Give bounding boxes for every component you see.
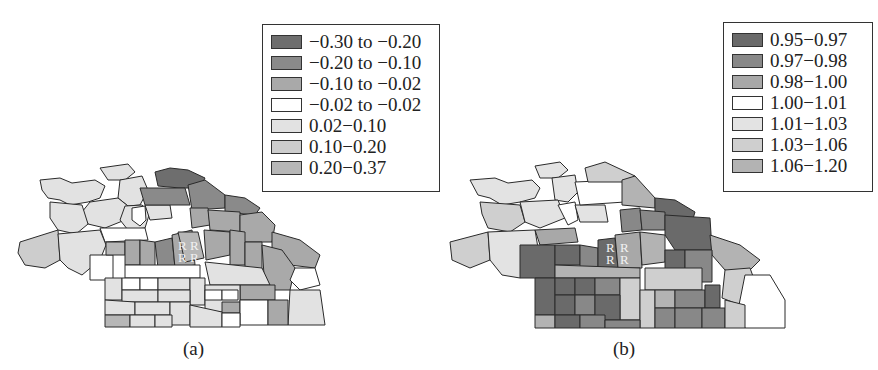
- legend-item: 1.06−1.20: [732, 155, 864, 176]
- legend-item: 1.01−1.03: [732, 113, 864, 134]
- region: [640, 290, 655, 328]
- legend-label: −0.20 to −0.10: [309, 53, 421, 72]
- panel-b: R R R R 0.95−0.97 0.97−0.98 0.98−1.00 1.…: [440, 0, 878, 370]
- region: [105, 278, 122, 300]
- region: [675, 308, 702, 328]
- swatch: [732, 33, 763, 47]
- legend-item: 0.98−1.00: [732, 71, 864, 92]
- swatch: [732, 96, 763, 110]
- legend-item: 0.02−0.10: [271, 115, 431, 136]
- legend-label: 1.03−1.06: [770, 135, 847, 154]
- legend-label: 0.20−0.37: [309, 158, 386, 177]
- region: [640, 210, 665, 230]
- region: [552, 175, 578, 202]
- legend-a: −0.30 to −0.20 −0.20 to −0.10 −0.10 to −…: [262, 24, 440, 192]
- region: [145, 205, 172, 220]
- region: [130, 315, 155, 327]
- region: [18, 230, 60, 268]
- region: [205, 290, 222, 300]
- region: [450, 232, 490, 268]
- legend-item: 1.03−1.06: [732, 134, 864, 155]
- region: [580, 245, 598, 268]
- region: [480, 202, 525, 232]
- marker-r: R: [178, 250, 187, 265]
- region: [190, 278, 205, 305]
- region: [725, 300, 745, 328]
- legend-label: −0.10 to −0.02: [309, 74, 421, 93]
- region: [575, 295, 595, 315]
- region: [155, 315, 172, 327]
- legend-item: −0.20 to −0.10: [271, 52, 431, 73]
- region: [290, 268, 320, 290]
- swatch: [732, 54, 763, 68]
- region: [702, 308, 725, 328]
- caption-b: (b): [613, 338, 635, 360]
- swatch: [732, 75, 763, 89]
- region: [605, 320, 640, 328]
- region: [204, 230, 230, 260]
- region: [620, 278, 640, 320]
- swatch: [271, 161, 302, 175]
- region: [240, 300, 268, 325]
- region: [105, 300, 135, 315]
- region: [105, 315, 130, 327]
- marker-r: R: [606, 252, 615, 267]
- marker-r: R: [190, 250, 199, 265]
- region: [705, 285, 720, 308]
- region: [190, 208, 210, 228]
- region: [222, 313, 240, 327]
- region: [82, 198, 128, 228]
- region: [595, 278, 620, 295]
- region: [170, 302, 190, 325]
- region: [155, 238, 175, 268]
- region: [222, 302, 240, 313]
- region: [288, 290, 325, 325]
- region: [100, 164, 135, 180]
- panel-a: R R R R −0.30 to −0.20 −0.20 to −0.10 −0…: [0, 0, 440, 370]
- marker-r: R: [620, 252, 629, 267]
- legend-item: −0.30 to −0.20: [271, 31, 431, 52]
- region: [140, 240, 155, 268]
- region: [520, 200, 565, 228]
- swatch: [271, 77, 302, 91]
- region: [645, 268, 702, 290]
- region: [555, 278, 575, 295]
- region: [158, 278, 190, 290]
- legend-label: 0.10−0.20: [309, 137, 386, 156]
- caption-a: (a): [183, 338, 204, 360]
- region: [158, 290, 190, 302]
- swatch: [271, 119, 302, 133]
- region: [620, 208, 642, 232]
- region: [125, 240, 140, 265]
- legend-label: 1.00−1.01: [770, 93, 847, 112]
- legend-label: −0.30 to −0.20: [309, 32, 421, 51]
- region: [230, 230, 245, 265]
- region: [106, 242, 125, 255]
- region: [555, 245, 580, 265]
- region: [135, 302, 170, 315]
- legend-label: 1.06−1.20: [770, 156, 847, 175]
- swatch: [732, 117, 763, 131]
- swatch: [732, 159, 763, 173]
- swatch: [271, 35, 302, 49]
- region: [222, 290, 238, 300]
- region: [535, 228, 578, 245]
- legend-item: −0.10 to −0.02: [271, 73, 431, 94]
- legend-item: 1.00−1.01: [732, 92, 864, 113]
- region: [555, 315, 580, 328]
- region: [208, 210, 240, 232]
- region: [535, 278, 555, 315]
- region: [640, 232, 665, 265]
- swatch: [271, 140, 302, 154]
- region: [140, 278, 158, 290]
- region: [580, 315, 605, 328]
- legend-item: −0.02 to −0.02: [271, 94, 431, 115]
- region: [140, 188, 190, 205]
- legend-label: −0.02 to −0.02: [309, 95, 421, 114]
- legend-label: 0.98−1.00: [770, 72, 847, 91]
- legend-item: 0.95−0.97: [732, 29, 864, 50]
- legend-label: 1.01−1.03: [770, 114, 847, 133]
- region: [520, 245, 555, 278]
- legend-item: 0.97−0.98: [732, 50, 864, 71]
- legend-item: 0.10−0.20: [271, 136, 431, 157]
